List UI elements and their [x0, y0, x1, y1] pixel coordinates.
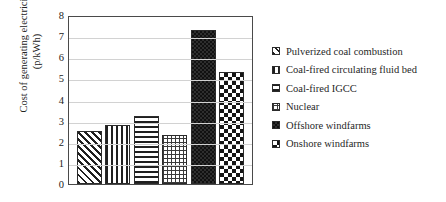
gridline [69, 165, 252, 166]
bar-chart: Cost of generating electricity (p/kWh) 8… [0, 0, 446, 202]
legend-item: Pulverized coal combustion [272, 42, 444, 61]
legend-label: Onshore windfarms [286, 138, 369, 149]
y-tick-label: 3 [44, 117, 64, 127]
bar [219, 72, 244, 184]
legend-item: Nuclear [272, 98, 444, 117]
y-axis-tick-labels: 876543210 [44, 16, 64, 185]
gridline [69, 102, 252, 103]
y-axis-title: Cost of generating electricity (p/kWh) [18, 0, 43, 142]
gridline [69, 123, 252, 124]
bar [105, 125, 130, 184]
y-tick-label: 5 [44, 74, 64, 84]
y-tick-label: 7 [44, 32, 64, 42]
legend-swatch-icon [272, 66, 280, 74]
bar-slot [75, 17, 104, 184]
legend-swatch-icon [272, 47, 280, 55]
bar [162, 135, 187, 184]
y-tick-label: 6 [44, 53, 64, 63]
legend-swatch-icon [272, 103, 280, 111]
legend: Pulverized coal combustionCoal-fired cir… [272, 42, 444, 153]
y-tick-label: 0 [44, 180, 64, 190]
gridline [69, 59, 252, 60]
legend-label: Offshore windfarms [286, 120, 371, 131]
plot-area [68, 16, 253, 185]
gridline [69, 38, 252, 39]
gridline [69, 80, 252, 81]
y-tick-label: 2 [44, 138, 64, 148]
bar-slot [218, 17, 247, 184]
legend-item: Onshore windfarms [272, 135, 444, 154]
legend-item: Offshore windfarms [272, 116, 444, 135]
y-tick-label: 1 [44, 159, 64, 169]
gridline [69, 144, 252, 145]
bar [191, 30, 216, 184]
legend-label: Coal-fired IGCC [286, 83, 357, 94]
legend-swatch-icon [272, 84, 280, 92]
legend-swatch-icon [272, 121, 280, 129]
bar [77, 131, 102, 184]
y-tick-label: 8 [44, 11, 64, 21]
legend-label: Coal-fired circulating fluid bed [286, 64, 417, 75]
legend-label: Nuclear [286, 101, 319, 112]
bar-slot [104, 17, 133, 184]
bar-slot [189, 17, 218, 184]
legend-item: Coal-fired circulating fluid bed [272, 61, 444, 80]
bar-series [69, 17, 252, 184]
bar [134, 116, 159, 184]
bar-slot [161, 17, 190, 184]
y-tick-label: 4 [44, 96, 64, 106]
bar-slot [132, 17, 161, 184]
legend-swatch-icon [272, 140, 280, 148]
legend-label: Pulverized coal combustion [286, 46, 403, 57]
legend-item: Coal-fired IGCC [272, 79, 444, 98]
